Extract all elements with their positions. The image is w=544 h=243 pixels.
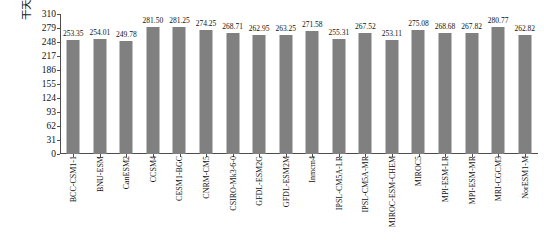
bar-chart: 干天天数 (d) 0316293124155186217248279310 25…: [0, 0, 544, 243]
bar-group: 263.25: [272, 14, 299, 154]
bar-group: 253.11: [379, 14, 406, 154]
x-axis-label-slot: MRI-CGCM3: [485, 156, 512, 241]
x-axis-tick-label: GFDL-ESM2M: [281, 156, 290, 207]
y-axis-tick-mark: [57, 98, 60, 99]
bar-value-label: 274.25: [196, 20, 217, 28]
y-axis-tick-mark: [57, 14, 60, 15]
bar-value-label: 275.08: [408, 20, 429, 28]
y-axis-tick-label: 62: [30, 122, 56, 131]
x-axis-label-slot: BNU-ESM: [87, 156, 114, 241]
bar-value-label: 271.58: [302, 21, 323, 29]
bar-value-label: 249.78: [116, 31, 137, 39]
bar-group: 281.50: [140, 14, 167, 154]
bar-value-label: 281.50: [143, 17, 164, 25]
x-axis-label-slot: NorESM1-M: [511, 156, 538, 241]
y-axis-tick-mark: [57, 140, 60, 141]
bar: [173, 27, 186, 154]
x-axis-label-slot: IPSL-CM5A-LR: [326, 156, 353, 241]
x-axis-tick-label: CanESM2: [122, 156, 131, 189]
y-axis-tick-mark: [57, 126, 60, 127]
x-axis-label-slot: CSIRO-Mk3-6-0: [219, 156, 246, 241]
bar-value-label: 267.82: [461, 23, 482, 31]
x-axis-label-slot: Inmcm4: [299, 156, 326, 241]
bar: [226, 33, 239, 154]
bar-value-label: 254.01: [90, 29, 111, 37]
bar: [332, 39, 345, 154]
x-axis-tick-label: NorESM1-M: [520, 156, 529, 199]
x-axis-tick-label: MIROC5: [414, 156, 423, 186]
x-axis-tick-label: CNRM-CM5: [202, 156, 211, 199]
bar: [492, 27, 505, 154]
bar: [146, 27, 159, 154]
bar-group: 281.25: [166, 14, 193, 154]
bar-group: 249.78: [113, 14, 140, 154]
bar: [200, 30, 213, 154]
x-axis-tick-label: Inmcm4: [308, 156, 317, 183]
bar: [67, 40, 80, 154]
x-axis-label-slot: MIROC5: [405, 156, 432, 241]
y-axis-tick-label: 124: [30, 94, 56, 103]
x-axis-tick-label: MRI-CGCM3: [494, 156, 503, 201]
x-axis-label-slot: CCSM4: [140, 156, 167, 241]
bar-group: 274.25: [193, 14, 220, 154]
x-axis-label-slot: IPSL-CM5A-MR: [352, 156, 379, 241]
bar-value-label: 255.31: [329, 29, 350, 37]
y-axis-tick-mark: [57, 28, 60, 29]
x-axis-tick-label: MIROC-ESM-CHEM: [387, 156, 396, 227]
bar-group: 262.95: [246, 14, 273, 154]
bar: [279, 35, 292, 154]
bar-group: 254.01: [87, 14, 114, 154]
x-axis-label-slot: CNRM-CM5: [193, 156, 220, 241]
bar-value-label: 262.95: [249, 25, 270, 33]
y-axis-tick-label: 248: [30, 38, 56, 47]
plot-area: 253.35254.01249.78281.50281.25274.25268.…: [60, 14, 538, 154]
bar: [465, 33, 478, 154]
bar-value-label: 262.82: [514, 25, 535, 33]
x-axis-tick-label: CSIRO-Mk3-6-0: [228, 156, 237, 211]
x-axis-tick-label: MPI-ESM-MR: [467, 156, 476, 204]
bar-value-label: 280.77: [488, 17, 509, 25]
bar-group: 268.68: [432, 14, 459, 154]
y-axis-tick-label: 0: [30, 150, 56, 159]
y-axis-tick-mark: [57, 42, 60, 43]
bar-value-label: 253.35: [63, 30, 84, 38]
y-axis-tick-label: 310: [30, 10, 56, 19]
bar-group: 267.82: [458, 14, 485, 154]
bar-group: 255.31: [326, 14, 353, 154]
x-axis-tick-label: GFDL-ESM2G: [255, 156, 264, 206]
bar-group: 280.77: [485, 14, 512, 154]
bar-value-label: 253.11: [382, 30, 402, 38]
y-axis-tick-mark: [57, 154, 60, 155]
y-axis-tick-mark: [57, 56, 60, 57]
bar-group: 253.35: [60, 14, 87, 154]
y-axis-tick-labels: 0316293124155186217248279310: [30, 14, 56, 154]
x-axis-label-slot: MPI-ESM-MR: [458, 156, 485, 241]
x-axis-label-slot: BCC-CSM1-1: [60, 156, 87, 241]
bar: [518, 35, 531, 154]
y-axis-tick-label: 31: [30, 136, 56, 145]
bar: [385, 40, 398, 154]
x-axis-label-slot: MPI-ESM-LR: [432, 156, 459, 241]
y-axis-tick-label: 186: [30, 66, 56, 75]
x-axis-tick-label: CESM1-BGC: [175, 156, 184, 201]
y-axis-tick-label: 279: [30, 24, 56, 33]
bar-value-label: 263.25: [275, 25, 296, 33]
x-axis-tick-label: CCSM4: [148, 156, 157, 182]
x-axis-label-slot: MIROC-ESM-CHEM: [379, 156, 406, 241]
bar-group: 268.71: [219, 14, 246, 154]
bar-value-label: 268.68: [435, 23, 456, 31]
x-axis-label-slot: CanESM2: [113, 156, 140, 241]
bar-value-label: 267.52: [355, 23, 376, 31]
x-axis-tick-label: MPI-ESM-LR: [441, 156, 450, 202]
x-axis-tick-label: IPSL-CM5A-LR: [334, 156, 343, 210]
x-axis-label-slot: CESM1-BGC: [166, 156, 193, 241]
x-axis-tick-label: BCC-CSM1-1: [69, 156, 78, 202]
x-axis-label-slot: GFDL-ESM2M: [272, 156, 299, 241]
y-axis-tick-label: 155: [30, 80, 56, 89]
x-axis-tick-labels: BCC-CSM1-1BNU-ESMCanESM2CCSM4CESM1-BGCCN…: [60, 156, 538, 243]
bar: [439, 33, 452, 154]
bar-value-label: 268.71: [222, 23, 243, 31]
y-axis-tick-mark: [57, 84, 60, 85]
x-axis-tick-label: IPSL-CM5A-MR: [361, 156, 370, 212]
bar-group: 267.52: [352, 14, 379, 154]
